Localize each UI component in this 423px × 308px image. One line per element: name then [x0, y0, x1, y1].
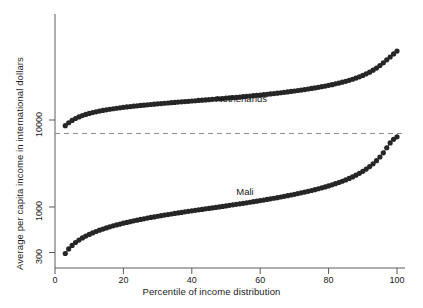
y-tick-label: 10000	[34, 112, 44, 137]
y-axis-title: Average per capita income in internation…	[14, 57, 25, 270]
series-line-netherlands	[65, 51, 397, 126]
series-marker-mali	[394, 134, 399, 139]
series-marker-mali	[63, 251, 68, 256]
series-marker-mali	[381, 150, 386, 155]
netherlands-series-label: Netherlands	[216, 93, 267, 104]
y-tick-label: 300	[34, 249, 44, 264]
series-marker-mali	[377, 154, 382, 159]
x-tick-label: 100	[389, 275, 404, 285]
y-tick-marks	[49, 120, 55, 252]
plot-canvas	[0, 0, 423, 308]
x-tick-label: 0	[52, 275, 57, 285]
mali-series-label: Mali	[236, 186, 253, 197]
series-line-mali	[65, 137, 397, 254]
series-markers	[63, 48, 400, 256]
x-tick-label: 80	[324, 275, 334, 285]
series-marker-netherlands	[394, 48, 399, 53]
series-marker-mali	[384, 145, 389, 150]
income-distribution-chart: Percentile of income distribution Averag…	[0, 0, 423, 308]
x-tick-label: 20	[118, 275, 128, 285]
x-axis-title: Percentile of income distribution	[0, 286, 423, 297]
y-tick-label: 1000	[34, 201, 44, 221]
x-tick-marks	[55, 268, 397, 274]
x-tick-label: 60	[255, 275, 265, 285]
x-tick-label: 40	[187, 275, 197, 285]
